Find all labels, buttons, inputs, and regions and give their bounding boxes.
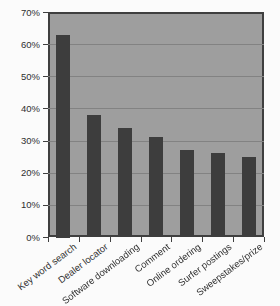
gridline-50 <box>48 76 264 77</box>
y-tick-mark <box>43 141 48 142</box>
y-axis-label-20: 20% <box>0 167 40 178</box>
y-axis-label-0: 0% <box>0 232 40 243</box>
x-tick-mark <box>48 237 49 242</box>
bar-comment <box>149 137 163 237</box>
gridline-60 <box>48 44 264 45</box>
x-tick-mark <box>202 237 203 242</box>
y-tick-mark <box>43 12 48 13</box>
x-tick-mark <box>141 237 142 242</box>
y-axis-label-60: 60% <box>0 39 40 50</box>
x-tick-mark <box>233 237 234 242</box>
bar-online-ordering <box>180 150 194 237</box>
bar-key-word-search <box>56 35 70 238</box>
x-tick-mark <box>79 237 80 242</box>
bar-surfer-postings <box>211 153 225 237</box>
y-axis-label-30: 30% <box>0 135 40 146</box>
bar-software-downloading <box>118 128 132 237</box>
y-tick-mark <box>43 173 48 174</box>
bar-dealer-locator <box>87 115 101 237</box>
y-axis-label-70: 70% <box>0 7 40 18</box>
x-tick-mark <box>171 237 172 242</box>
y-tick-mark <box>43 108 48 109</box>
y-tick-mark <box>43 205 48 206</box>
y-tick-mark <box>43 76 48 77</box>
y-axis-label-50: 50% <box>0 71 40 82</box>
x-tick-mark <box>110 237 111 242</box>
gridline-40 <box>48 108 264 109</box>
y-axis-label-10: 10% <box>0 199 40 210</box>
y-tick-mark <box>43 44 48 45</box>
bar-sweepstakes-prize <box>242 157 256 237</box>
x-tick-mark <box>264 237 265 242</box>
y-axis-label-40: 40% <box>0 103 40 114</box>
